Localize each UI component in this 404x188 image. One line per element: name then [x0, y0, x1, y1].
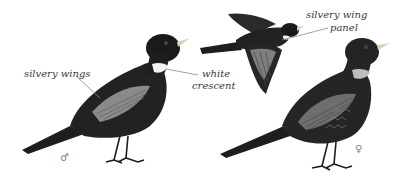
leader-line-white-crescent [166, 69, 198, 75]
male-bird-figure [22, 34, 190, 163]
label-white-crescent-line1: white [202, 68, 230, 79]
label-silvery-wing-panel-line1: silvery wing [306, 9, 367, 20]
male-symbol: ♂ [60, 152, 69, 163]
female-symbol: ♀ [355, 143, 362, 154]
label-silvery-wings: silvery wings [24, 68, 90, 79]
female-bird-figure [220, 38, 390, 170]
illustration-plate: silvery wings white crescent silvery win… [0, 0, 404, 188]
label-white-crescent-line2: crescent [192, 80, 235, 91]
label-silvery-wing-panel-line2: panel [330, 22, 358, 33]
leader-line-silvery-wings [76, 76, 100, 98]
